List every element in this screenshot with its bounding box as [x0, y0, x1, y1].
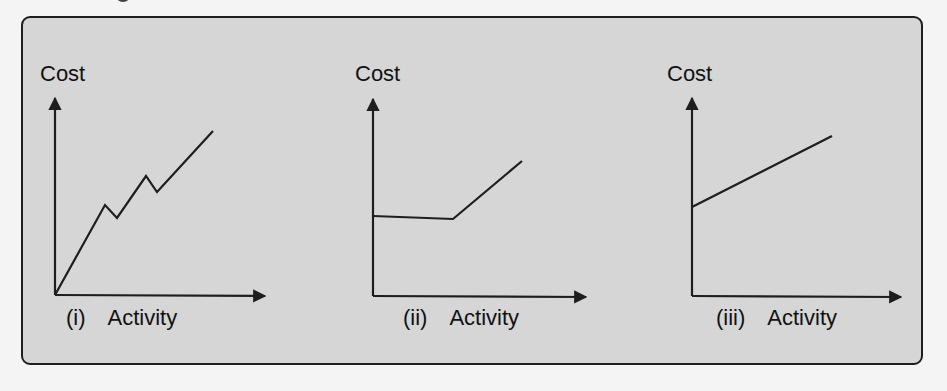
panel-ii-x-axis: [373, 296, 586, 297]
panel-i-cost-line: [55, 131, 213, 295]
panel-i-y-axis-label: Cost: [40, 63, 85, 85]
panel-iii-number: (iii): [716, 305, 745, 330]
panel-iii-x-axis-label: Activity: [767, 305, 837, 330]
panel-iii-x-axis: [692, 296, 901, 297]
panel-i-number: (i): [66, 305, 86, 330]
panel-iii-cost-line: [692, 136, 832, 207]
panel-i-chart: [55, 98, 265, 296]
panel-iii-caption: (iii)Activity: [716, 307, 837, 329]
cost-behaviour-diagram: [0, 0, 947, 391]
panel-i-x-axis: [55, 295, 265, 296]
panel-iii-chart: [692, 98, 901, 297]
panel-ii-caption: (ii)Activity: [403, 307, 519, 329]
panel-ii-x-axis-label: Activity: [449, 305, 519, 330]
panel-iii-y-axis-label: Cost: [667, 63, 712, 85]
panel-ii-y-axis-label: Cost: [355, 63, 400, 85]
panel-i-caption: (i)Activity: [66, 307, 177, 329]
panel-ii-number: (ii): [403, 305, 427, 330]
panel-i-x-axis-label: Activity: [108, 305, 178, 330]
panel-ii-chart: [373, 99, 586, 297]
panel-ii-cost-line: [373, 161, 522, 219]
